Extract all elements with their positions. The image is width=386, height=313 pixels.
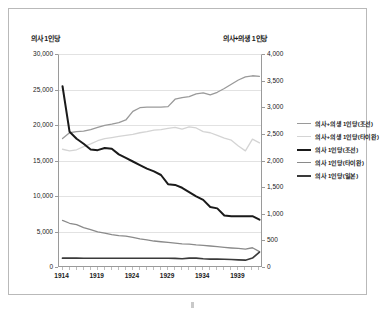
legend-label: 의사+의생 1인당(타이완) [315,132,379,141]
legend-label: 의사 1인당(일본) [315,171,358,180]
right-axis-tick-label: 3,000 [267,103,307,111]
chart-screenshot: 의사 1인당 의사+의생 1인당 05,00010,00015,00020,00… [0,0,386,313]
x-axis-tick-label: 1929 [152,271,182,280]
x-axis-tick-label: 1934 [187,271,217,280]
left-axis-tick-label: 10,000 [13,192,53,200]
left-axis-tick-label: 25,000 [13,86,53,94]
legend-item[interactable]: 의사+의생 1인당(조선) [297,117,375,130]
legend-label: 의사+의생 1인당(조선) [315,119,373,128]
right-axis-tick-label: 500 [267,236,307,244]
legend-swatch-line-icon [297,175,311,177]
legend-item[interactable]: 의사 1인당(타이완) [297,156,375,169]
left-axis-title: 의사 1인당 [31,33,60,43]
right-axis-tick-label: 4,000 [267,50,307,58]
series-lines [59,55,263,268]
chart-legend: 의사+의생 1인당(조선)의사+의생 1인당(타이완)의사 1인당(조선)의사 … [297,117,375,182]
x-axis-tick-label: 1924 [117,271,147,280]
right-axis-tick-label: 1,000 [267,210,307,218]
left-axis-tick-label: 30,000 [13,50,53,58]
page-edge-mark [191,302,194,308]
series-line [63,252,260,260]
legend-swatch-line-icon [297,149,311,151]
plot-area [58,54,262,267]
legend-item[interactable]: 의사 1인당(일본) [297,169,375,182]
left-axis-tick-label: 5,000 [13,228,53,236]
left-axis-tick-label: 20,000 [13,121,53,129]
series-line [63,220,260,251]
legend-swatch-line-icon [297,136,311,137]
x-axis-tick-label: 1939 [222,271,252,280]
right-axis-tick-label: 0 [267,263,307,271]
right-axis-tick-label: 1,500 [267,183,307,191]
legend-label: 의사 1인당(타이완) [315,158,364,167]
legend-item[interactable]: 의사 1인당(조선) [297,143,375,156]
left-axis-tick-label: 0 [13,263,53,271]
legend-item[interactable]: 의사+의생 1인당(타이완) [297,130,375,143]
legend-swatch-line-icon [297,162,311,163]
legend-label: 의사 1인당(조선) [315,145,358,154]
left-axis-tick-label: 15,000 [13,157,53,165]
x-axis-tick-label: 1914 [47,271,77,280]
x-axis-tick-label: 1919 [82,271,112,280]
series-line [63,127,260,151]
left-axis-tick-mark [55,267,58,268]
legend-swatch-line-icon [297,123,311,124]
right-axis-title: 의사+의생 1인당 [223,33,267,43]
series-line [63,86,260,219]
right-axis-tick-label: 3,500 [267,77,307,85]
chart-frame: 의사 1인당 의사+의생 1인당 05,00010,00015,00020,00… [8,8,367,295]
